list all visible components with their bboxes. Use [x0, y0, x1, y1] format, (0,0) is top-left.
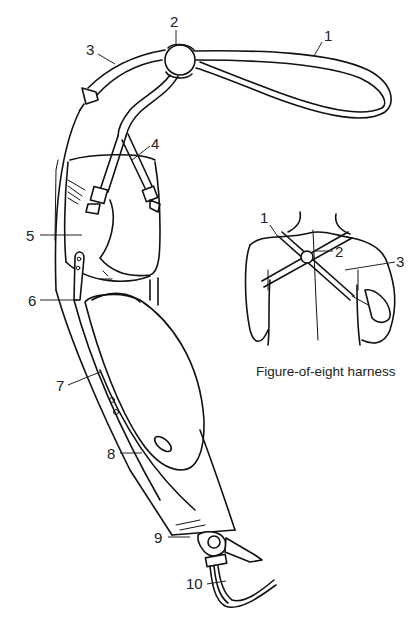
label-5-cuff: 5	[26, 228, 34, 243]
terminal-device	[198, 532, 276, 608]
label-3-strap: 3	[86, 42, 94, 57]
label-9-wrist-unit: 9	[154, 530, 162, 545]
front-support-strap	[86, 75, 178, 214]
control-attachment-strap	[55, 50, 165, 290]
label-1-axilla-loop: 1	[324, 28, 332, 43]
inset-label-3: 3	[396, 254, 404, 269]
inset-caption: Figure-of-eight harness	[256, 364, 396, 379]
prosthesis-diagram: 2 1 3 4 5 6 7 8 9 10 1 2 3 Figure-of-eig…	[0, 0, 418, 620]
axilla-loop	[194, 51, 391, 118]
elbow-hinge	[74, 252, 112, 300]
label-6-hinge: 6	[28, 293, 36, 308]
label-4-front-strap: 4	[151, 136, 159, 151]
label-7-socket: 7	[56, 378, 64, 393]
label-1-harness-ring: 2	[170, 14, 178, 29]
harness-ring	[165, 44, 195, 77]
inset-label-1: 1	[260, 210, 268, 225]
prosthesis-drawing	[0, 0, 418, 620]
label-8-forearm: 8	[107, 446, 115, 461]
forearm-shell	[56, 278, 235, 535]
label-10-hook: 10	[186, 576, 203, 591]
inset-label-2: 2	[335, 244, 343, 259]
leader-lines	[40, 30, 395, 584]
inset-back-figure	[246, 212, 395, 345]
